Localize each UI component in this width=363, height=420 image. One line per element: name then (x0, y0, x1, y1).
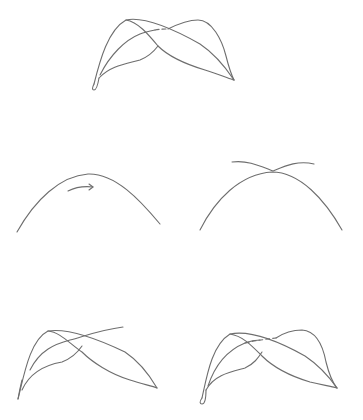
step-arch (17, 174, 160, 232)
arch-curve (200, 172, 342, 230)
left-leaf-top-edge (202, 333, 337, 398)
right-leaf-dome (276, 330, 337, 388)
right-leaf-dome (168, 20, 234, 80)
arch-curve (17, 174, 160, 232)
left-leaf-crossing-curve (126, 20, 234, 80)
step-arch-with-crossing (200, 162, 342, 230)
leaf-top-edge (18, 331, 157, 399)
step-second-leaf (200, 330, 337, 404)
stem (18, 380, 22, 399)
stem (93, 78, 100, 90)
right-leaf-hidden-dashed (155, 29, 168, 30)
crossing-curve (232, 162, 314, 171)
crossing-curve (48, 331, 157, 388)
step-first-leaf (18, 327, 157, 399)
step-final-leaves (93, 19, 235, 90)
right-leaf-inner-edge (100, 30, 155, 75)
leaf-drawing-tutorial (0, 0, 363, 420)
